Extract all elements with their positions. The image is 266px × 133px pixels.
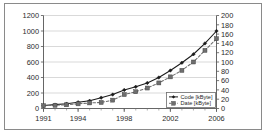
tick-label-right: 60 — [221, 76, 229, 85]
tick-label-right: 20 — [221, 95, 229, 104]
data-point-2 — [191, 60, 195, 64]
data-point-2 — [157, 81, 161, 85]
data-point-2 — [53, 103, 57, 107]
tick-label-right: 80 — [221, 67, 229, 76]
data-point-2 — [42, 104, 46, 108]
tick-label-right: 200 — [221, 11, 233, 20]
tick-label-x: 1991 — [35, 114, 51, 123]
tick-label-x: 2002 — [162, 114, 178, 123]
data-point-2 — [215, 37, 219, 41]
line-chart: 0200400600800100012000204060801001201401… — [0, 0, 266, 133]
tick-label-left: 200 — [27, 89, 39, 98]
data-point-2 — [203, 48, 207, 52]
data-point-2 — [111, 98, 115, 102]
tick-label-left: 1200 — [23, 11, 39, 20]
tick-label-right: 40 — [221, 86, 229, 95]
tick-label-left: 400 — [27, 73, 39, 82]
tick-label-right: 120 — [221, 48, 233, 57]
legend-marker-2 — [172, 101, 176, 105]
data-point-2 — [76, 102, 80, 106]
tick-label-right: 100 — [221, 58, 233, 67]
tick-label-left: 1000 — [23, 27, 39, 36]
tick-label-left: 600 — [27, 58, 39, 67]
tick-label-left: 0 — [35, 104, 39, 113]
tick-label-right: 180 — [221, 21, 233, 30]
tick-label-x: 2006 — [208, 114, 224, 123]
tick-label-x: 1994 — [70, 114, 86, 123]
data-point-2 — [65, 103, 69, 107]
chart-figure: 0200400600800100012000204060801001201401… — [0, 0, 266, 133]
tick-label-x: 1998 — [116, 114, 132, 123]
legend-label-2: Date [kByte] — [181, 100, 212, 106]
tick-label-left: 800 — [27, 42, 39, 51]
tick-label-right: 0 — [221, 104, 225, 113]
data-point-2 — [99, 100, 103, 104]
data-point-2 — [122, 93, 126, 97]
tick-label-right: 140 — [221, 39, 233, 48]
data-point-2 — [134, 90, 138, 94]
tick-label-right: 160 — [221, 30, 233, 39]
data-point-2 — [145, 86, 149, 90]
legend-label-1: Code [kByte] — [181, 94, 213, 100]
data-point-2 — [168, 75, 172, 79]
data-point-2 — [88, 101, 92, 105]
data-point-2 — [180, 68, 184, 72]
